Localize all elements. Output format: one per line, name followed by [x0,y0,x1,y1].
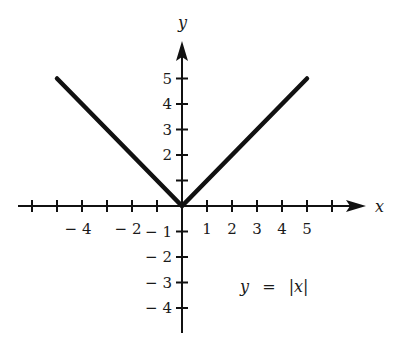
x-tick-label: 5 [302,220,312,238]
equation-rhs: |x| [289,277,309,296]
equation-label: y = |x| [239,277,308,296]
x-tick-label: 2 [227,220,237,238]
equation-lhs: y [239,277,250,296]
x-tick-label: − 2 [115,220,142,238]
y-tick-label: 5 [162,70,172,88]
equation-equals: = [262,277,275,296]
x-tick-label: − 4 [65,220,92,238]
y-axis-label: y [177,13,188,32]
x-tick-label: 3 [252,220,262,238]
abs-value-graph: − 4− 2123455432− 1− 2− 3− 4 x y y = |x| [0,0,397,341]
x-tick-label: 4 [277,220,287,238]
axes [18,41,366,333]
y-tick-label: 3 [162,121,172,139]
y-tick-label: 2 [162,146,172,164]
y-tick-label: − 2 [145,248,172,266]
y-tick-label: − 3 [145,274,172,292]
x-tick-label: 1 [202,220,212,238]
y-tick-label: − 4 [145,299,172,317]
y-tick-label: 4 [162,95,172,113]
y-tick-label: − 1 [145,223,172,241]
x-axis-label: x [375,197,384,216]
